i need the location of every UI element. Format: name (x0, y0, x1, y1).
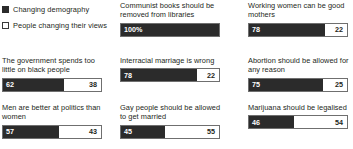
bar-value-label: 75 (249, 80, 260, 89)
panel-title: Abortion should be allowed for any reaso… (248, 56, 353, 75)
bar-segment-changing-demography: 45 (121, 126, 165, 138)
panel-title: Communist books should be removed from l… (120, 1, 228, 20)
stacked-bar: 100% (120, 23, 220, 37)
bar-segment-changing-demography: 57 (3, 126, 59, 138)
chart-panel-abortion: Abortion should be allowed for any reaso… (248, 56, 353, 92)
bar-segment-people-changing-views: 54 (294, 116, 347, 128)
bar-segment-changing-demography: 62 (3, 79, 64, 91)
stacked-bar: 75 25 (248, 78, 348, 92)
bar-value-label: 46 (249, 118, 260, 127)
bar-segment-people-changing-views: 22 (197, 69, 219, 81)
panel-title: Gay people should be allowed to get marr… (120, 103, 228, 122)
stacked-bar: 62 38 (2, 78, 102, 92)
chart-panel-gay-marriage: Gay people should be allowed to get marr… (120, 103, 232, 139)
legend-item-changing-demography: Changing demography (2, 3, 114, 16)
legend-item-people-changing-views: People changing their views (2, 19, 114, 32)
chart-panel-working-women: Working women can be good mothers 78 22 (248, 1, 353, 37)
legend-item-label: Changing demography (13, 5, 89, 14)
bar-value-label: 78 (249, 25, 260, 34)
bar-value-label: 57 (3, 127, 14, 136)
filled-square-icon (2, 6, 9, 13)
bar-segment-people-changing-views: 38 (64, 79, 101, 91)
bar-segment-changing-demography: 75 (249, 79, 323, 91)
panel-title: The government spends too little on blac… (2, 56, 110, 75)
bar-value-label: 38 (89, 80, 101, 89)
chart-panel-government-spends: The government spends too little on blac… (2, 56, 114, 92)
bar-segment-changing-demography: 78 (121, 69, 197, 81)
stacked-bar: 57 43 (2, 125, 102, 139)
outline-square-icon (2, 22, 9, 29)
bar-value-label: 55 (207, 127, 219, 136)
chart-legend: Changing demography People changing thei… (2, 3, 114, 35)
bar-segment-changing-demography: 100% (121, 24, 219, 36)
panel-title: Men are better at politics than women (2, 103, 110, 122)
bar-value-label: 45 (121, 127, 132, 136)
bar-value-label: 25 (335, 80, 347, 89)
chart-panel-interracial-marriage: Interracial marriage is wrong 78 22 (120, 56, 232, 82)
chart-panel-marijuana: Marijuana should be legalised 46 54 (248, 103, 353, 129)
chart-panel-communist-books: Communist books should be removed from l… (120, 1, 232, 37)
panel-title: Working women can be good mothers (248, 1, 353, 20)
bar-segment-changing-demography: 46 (249, 116, 294, 128)
stacked-bar: 46 54 (248, 115, 348, 129)
bar-value-label: 54 (335, 118, 347, 127)
panel-title: Interracial marriage is wrong (120, 56, 228, 65)
stacked-bar: 45 55 (120, 125, 220, 139)
chart-panel-men-better-politics: Men are better at politics than women 57… (2, 103, 114, 139)
bar-value-label: 22 (207, 71, 219, 80)
panel-title: Marijuana should be legalised (248, 103, 353, 112)
bar-segment-people-changing-views: 43 (59, 126, 101, 138)
bar-value-label: 22 (335, 25, 347, 34)
bar-value-label: 78 (121, 71, 132, 80)
legend-item-label: People changing their views (13, 21, 107, 30)
bar-segment-people-changing-views: 25 (323, 79, 348, 91)
stacked-bar: 78 22 (120, 68, 220, 82)
bar-value-label: 100% (121, 25, 142, 34)
bar-segment-changing-demography: 78 (249, 24, 325, 36)
bar-segment-people-changing-views: 22 (325, 24, 347, 36)
bar-value-label: 43 (89, 127, 101, 136)
bar-segment-people-changing-views: 55 (165, 126, 219, 138)
bar-value-label: 62 (3, 80, 14, 89)
stacked-bar: 78 22 (248, 23, 348, 37)
